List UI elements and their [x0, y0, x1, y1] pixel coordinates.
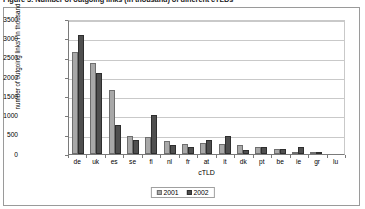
bar-group[interactable] — [198, 21, 214, 154]
x-axis-title: cTLD — [68, 169, 345, 176]
x-tick-label-at: at — [198, 157, 214, 168]
bar-group[interactable] — [235, 21, 251, 154]
bar-group[interactable] — [180, 21, 196, 154]
x-tick-label-ie: ie — [291, 157, 307, 168]
x-tick-label-be: be — [272, 157, 288, 168]
bar-be-2002[interactable] — [280, 149, 286, 154]
x-tick-label-gr: gr — [309, 157, 325, 168]
y-tick-label: 0 — [0, 152, 18, 159]
bar-dk-2002[interactable] — [243, 150, 249, 154]
y-tick-label: 3000 — [0, 36, 18, 43]
x-axis-ticks: deukessefinlfratitdkptbeiegrlu — [68, 157, 345, 168]
x-tick-label-nl: nl — [161, 157, 177, 168]
x-tick-label-dk: dk — [235, 157, 251, 168]
y-tick-label: 2000 — [0, 75, 18, 82]
legend-label-2002: 2002 — [194, 189, 209, 196]
x-tick-mark — [253, 155, 254, 158]
bar-nl-2002[interactable] — [170, 145, 176, 154]
x-tick-mark — [271, 155, 272, 158]
y-tick-label: 2500 — [0, 55, 18, 62]
bar-group[interactable] — [143, 21, 159, 154]
x-tick-mark — [179, 155, 180, 158]
bar-it-2002[interactable] — [225, 136, 231, 154]
x-tick-mark — [345, 155, 346, 158]
bar-group[interactable] — [290, 21, 306, 154]
bar-es-2002[interactable] — [115, 125, 121, 154]
y-tick-label: 500 — [0, 132, 18, 139]
chart-page: Figure 3: Number of outgoing links (in t… — [0, 0, 365, 209]
bar-gr-2002[interactable] — [316, 152, 322, 154]
chart-frame: number of outgoing links l in thousand 0… — [3, 7, 360, 206]
x-tick-label-lu: lu — [328, 157, 344, 168]
bar-group[interactable] — [125, 21, 141, 154]
bar-at-2002[interactable] — [206, 140, 212, 154]
x-tick-mark — [308, 155, 309, 158]
y-tick-label: 1000 — [0, 113, 18, 120]
x-tick-label-pt: pt — [254, 157, 270, 168]
figure-caption: Figure 3: Number of outgoing links (in t… — [3, 0, 363, 6]
bar-de-2002[interactable] — [78, 35, 84, 154]
x-tick-mark — [68, 155, 69, 158]
bar-group[interactable] — [327, 21, 343, 154]
legend-label-2001: 2001 — [163, 189, 178, 196]
x-tick-mark — [142, 155, 143, 158]
x-tick-label-fr: fr — [180, 157, 196, 168]
x-tick-label-fi: fi — [143, 157, 159, 168]
bar-group[interactable] — [88, 21, 104, 154]
bar-se-2002[interactable] — [133, 140, 139, 154]
bar-fi-2002[interactable] — [151, 115, 157, 154]
bar-group[interactable] — [272, 21, 288, 154]
bar-groups — [69, 21, 344, 154]
bar-group[interactable] — [253, 21, 269, 154]
legend-swatch-icon-2002 — [187, 190, 192, 195]
bar-fr-2002[interactable] — [188, 147, 194, 154]
x-tick-mark — [327, 155, 328, 158]
x-tick-mark — [123, 155, 124, 158]
x-tick-mark — [290, 155, 291, 158]
x-tick-mark — [216, 155, 217, 158]
x-tick-mark — [234, 155, 235, 158]
plot-area — [68, 20, 345, 155]
plot-wrapper: number of outgoing links l in thousand 0… — [4, 8, 361, 207]
bar-uk-2002[interactable] — [96, 73, 102, 154]
bar-ie-2002[interactable] — [298, 147, 304, 154]
y-tick-label: 1500 — [0, 94, 18, 101]
bar-group[interactable] — [70, 21, 86, 154]
y-tick-label: 3500 — [0, 17, 18, 24]
x-tick-label-it: it — [217, 157, 233, 168]
x-tick-mark — [86, 155, 87, 158]
x-tick-label-uk: uk — [88, 157, 104, 168]
x-tick-label-se: se — [125, 157, 141, 168]
x-tick-mark — [160, 155, 161, 158]
x-tick-label-es: es — [106, 157, 122, 168]
bar-pt-2002[interactable] — [261, 147, 267, 154]
bar-group[interactable] — [217, 21, 233, 154]
x-tick-mark — [105, 155, 106, 158]
bar-group[interactable] — [107, 21, 123, 154]
legend-item-2001: 2001 — [156, 189, 178, 196]
legend-swatch-icon-2001 — [156, 190, 161, 195]
x-tick-label-de: de — [69, 157, 85, 168]
legend-item-2002: 2002 — [187, 189, 209, 196]
x-tick-mark — [197, 155, 198, 158]
bar-group[interactable] — [308, 21, 324, 154]
chart-legend: 2001 2002 — [150, 187, 214, 198]
bar-group[interactable] — [162, 21, 178, 154]
